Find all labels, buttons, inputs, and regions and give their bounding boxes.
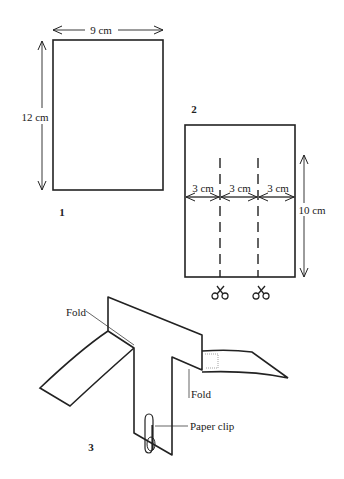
paper-rectangle	[53, 40, 163, 190]
segment-label-1: 3 cm	[192, 182, 214, 194]
paper-rectangle	[185, 125, 295, 277]
figure-2: 2 3 cm 3 cm 3 cm 10 cm	[185, 103, 326, 299]
helicopter-body	[108, 297, 202, 455]
figure-number: 2	[191, 103, 197, 115]
figure-3: Fold Fold Paper clip 3	[40, 297, 288, 455]
height-label: 10 cm	[298, 204, 326, 216]
helicopter-diagram: 9 cm 12 cm 1 2 3 cm 3 cm 3 cm 10 cm	[0, 0, 344, 479]
width-label: 9 cm	[90, 24, 112, 36]
right-blade	[202, 350, 288, 378]
clip-label: Paper clip	[190, 420, 235, 432]
segment-label-3: 3 cm	[267, 182, 289, 194]
left-blade	[40, 331, 134, 406]
segment-label-2: 3 cm	[229, 182, 251, 194]
figure-number: 1	[59, 206, 65, 218]
scissors-icon	[212, 286, 228, 299]
height-label: 12 cm	[21, 111, 49, 123]
scissors-icon	[253, 286, 269, 299]
fold-label-right: Fold	[191, 388, 212, 400]
fold-label-left: Fold	[66, 306, 87, 318]
figure-number: 3	[88, 441, 94, 453]
figure-1: 9 cm 12 cm 1	[21, 24, 163, 218]
